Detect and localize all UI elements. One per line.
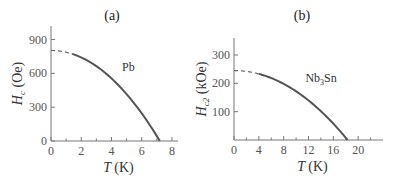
panel-b: (b)048121620100200300T (K)Hc2 (kOe)Nb3Sn <box>194 8 383 175</box>
x-tick-label: 12 <box>303 143 315 157</box>
chart-title: (b) <box>294 8 311 24</box>
x-axis-symbol: T <box>297 159 308 174</box>
y-tick-label: 900 <box>29 33 47 47</box>
x-axis-title: T (K) <box>297 159 328 175</box>
curve-annotation: Pb <box>122 60 135 74</box>
x-axis-title: T (K) <box>103 160 134 176</box>
y-axis-title: Hc2 (kOe) <box>194 61 211 117</box>
x-axis-unit: (K) <box>308 159 328 175</box>
y-axis-unit: (Oe) <box>10 62 26 91</box>
y-tick-label: 300 <box>212 48 230 62</box>
curve-annotation: Nb3Sn <box>305 71 336 87</box>
figure: (a)024680300600900T (K)Hc (Oe)Pb (b)0481… <box>0 0 396 181</box>
x-tick-label: 4 <box>256 143 262 157</box>
x-axis-symbol: T <box>103 160 114 175</box>
panel-a: (a)024680300600900T (K)Hc (Oe)Pb <box>10 8 178 176</box>
x-tick-label: 2 <box>78 144 84 158</box>
y-tick-label: 0 <box>41 134 47 148</box>
chart-title: (a) <box>104 8 120 24</box>
extrapolated-dashed-line <box>51 50 72 53</box>
annotation-base: Nb <box>305 71 320 85</box>
extrapolated-dashed-line <box>234 71 259 74</box>
x-tick-label: 8 <box>169 144 175 158</box>
x-tick-label: 4 <box>108 144 114 158</box>
y-tick-label: 600 <box>29 66 47 80</box>
y-tick-label: 100 <box>212 105 230 119</box>
x-tick-label: 0 <box>48 144 54 158</box>
y-axis-title: Hc (Oe) <box>10 62 27 107</box>
annotation-tail: Sn <box>324 71 337 85</box>
x-tick-label: 8 <box>281 143 287 157</box>
x-tick-label: 0 <box>231 143 237 157</box>
critical-field-curve <box>72 54 160 141</box>
y-tick-label: 300 <box>29 100 47 114</box>
y-tick-label: 200 <box>212 76 230 90</box>
x-axis-unit: (K) <box>114 160 134 176</box>
x-tick-label: 16 <box>327 143 339 157</box>
x-tick-label: 6 <box>139 144 145 158</box>
x-tick-label: 20 <box>352 143 364 157</box>
y-axis-unit: (kOe) <box>194 61 210 97</box>
